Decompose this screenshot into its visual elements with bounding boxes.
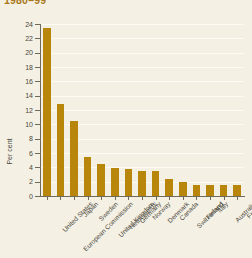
y-axis-label: 22 bbox=[18, 35, 33, 42]
gridline bbox=[40, 67, 244, 68]
bar bbox=[70, 121, 78, 196]
x-axis-tick bbox=[156, 196, 157, 200]
y-axis-tick bbox=[35, 24, 40, 25]
y-axis-label: 14 bbox=[18, 92, 33, 99]
chart-title: 1980–99 bbox=[4, 0, 46, 6]
x-axis-tick bbox=[183, 196, 184, 200]
gridline bbox=[40, 110, 244, 111]
y-axis-tick bbox=[35, 110, 40, 111]
bar bbox=[152, 171, 160, 196]
y-axis-label: 6 bbox=[18, 150, 33, 157]
gridline bbox=[40, 24, 244, 25]
x-axis-tick bbox=[128, 196, 129, 200]
y-axis-tick bbox=[35, 53, 40, 54]
y-axis-label: 12 bbox=[18, 107, 33, 114]
bar bbox=[193, 185, 201, 196]
y-axis-label: 24 bbox=[18, 21, 33, 28]
y-axis-label: 8 bbox=[18, 135, 33, 142]
y-axis-label: 18 bbox=[18, 64, 33, 71]
x-axis-tick bbox=[60, 196, 61, 200]
gridline bbox=[40, 53, 244, 54]
y-axis-tick bbox=[35, 67, 40, 68]
y-axis-tick bbox=[35, 153, 40, 154]
y-axis-label: 4 bbox=[18, 164, 33, 171]
bar bbox=[233, 185, 241, 196]
y-axis-label: 16 bbox=[18, 78, 33, 85]
x-axis-tick bbox=[237, 196, 238, 200]
bar-chart: 1980–99 024681012141618202224 Per cent U… bbox=[0, 0, 252, 258]
bar bbox=[138, 171, 146, 196]
bar bbox=[43, 28, 51, 196]
y-axis-title: Per cent bbox=[6, 130, 13, 174]
y-axis-label: 2 bbox=[18, 178, 33, 185]
x-axis-tick bbox=[196, 196, 197, 200]
x-axis-tick bbox=[169, 196, 170, 200]
gridline bbox=[40, 38, 244, 39]
bar bbox=[57, 104, 65, 196]
x-axis-tick bbox=[47, 196, 48, 200]
y-axis-tick bbox=[35, 124, 40, 125]
gridline bbox=[40, 96, 244, 97]
plot-area bbox=[40, 24, 244, 196]
y-axis-tick bbox=[35, 38, 40, 39]
bar bbox=[97, 164, 105, 196]
y-axis-label: 0 bbox=[18, 193, 33, 200]
y-axis-tick bbox=[35, 182, 40, 183]
bar bbox=[125, 169, 133, 196]
x-axis-tick bbox=[210, 196, 211, 200]
bar bbox=[206, 185, 214, 196]
y-axis-tick bbox=[35, 81, 40, 82]
y-axis-tick bbox=[35, 96, 40, 97]
y-axis-tick bbox=[35, 167, 40, 168]
y-axis-label: 20 bbox=[18, 49, 33, 56]
y-axis-label: 10 bbox=[18, 121, 33, 128]
x-axis-tick bbox=[74, 196, 75, 200]
x-axis-tick bbox=[88, 196, 89, 200]
gridline bbox=[40, 81, 244, 82]
y-axis-tick bbox=[35, 139, 40, 140]
bar bbox=[165, 179, 173, 196]
x-axis-tick bbox=[224, 196, 225, 200]
y-axis-tick bbox=[35, 196, 40, 197]
bar bbox=[84, 157, 92, 196]
x-axis-tick bbox=[101, 196, 102, 200]
bar bbox=[111, 168, 119, 196]
bar bbox=[220, 185, 228, 196]
x-axis-tick bbox=[115, 196, 116, 200]
x-axis-tick bbox=[142, 196, 143, 200]
y-axis-line bbox=[40, 24, 41, 197]
bar bbox=[179, 182, 187, 196]
